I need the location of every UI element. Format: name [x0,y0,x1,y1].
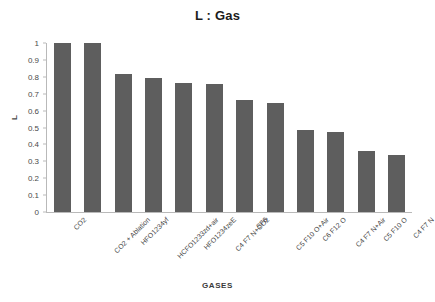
bar-slot[interactable] [138,43,168,212]
y-tick-mark [43,178,46,179]
bar-slot[interactable] [77,43,107,212]
bar-slot[interactable] [230,43,260,212]
bar[interactable] [54,43,71,212]
y-tick-mark [43,127,46,128]
bar[interactable] [297,130,314,212]
bar[interactable] [84,43,101,212]
bar[interactable] [327,132,344,212]
y-axis-title: L [10,115,19,120]
bar-slot[interactable] [290,43,320,212]
bar[interactable] [206,84,223,212]
y-tick-mark [43,195,46,196]
bar[interactable] [115,74,132,212]
bar[interactable] [175,83,192,212]
y-tick-mark [43,59,46,60]
y-tick-mark [43,43,46,44]
bar[interactable] [236,100,253,212]
y-tick-mark [43,144,46,145]
bar-slot[interactable] [382,43,412,212]
chart-title: L : Gas [0,8,435,23]
bar-slot[interactable] [260,43,290,212]
x-tick-label: C4 F7 N [411,216,434,239]
bar-slot[interactable] [47,43,77,212]
plot-area: 10.90.80.70.60.50.40.30.20.10 [46,43,412,212]
bar[interactable] [145,78,162,212]
bar[interactable] [358,151,375,212]
y-tick-mark [43,161,46,162]
x-axis-ticks: CO2CO2 + AblationHFO1234yfHCFO1233zd+air… [46,213,412,279]
y-tick-mark [43,93,46,94]
bar-slot[interactable] [351,43,381,212]
x-axis-title: GASES [0,281,435,290]
bar-chart: L : Gas L 10.90.80.70.60.50.40.30.20.10 … [0,0,435,302]
bar-slot[interactable] [321,43,351,212]
x-tick-label: CO2 [72,216,87,231]
bar-slot[interactable] [199,43,229,212]
y-tick-mark [43,110,46,111]
x-tick-label: C4 F7 N+Air [354,216,386,248]
bar-series [47,43,412,212]
bar[interactable] [388,155,405,212]
y-tick-mark [43,76,46,77]
bar-slot[interactable] [169,43,199,212]
bar-slot[interactable] [108,43,138,212]
bar[interactable] [267,103,284,212]
